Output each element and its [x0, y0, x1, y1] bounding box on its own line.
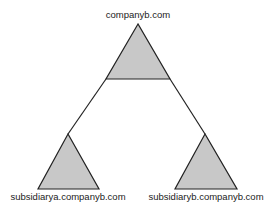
domain-tree-diagram: [0, 0, 277, 210]
subsidiary-b-label: subsidiaryb.companyb.com: [148, 191, 263, 202]
subsidiary-a-triangle: [38, 134, 99, 189]
connector-left: [68, 79, 106, 134]
root-domain-triangle: [106, 24, 170, 79]
root-domain-label: companyb.com: [106, 9, 170, 20]
connector-right: [170, 79, 205, 134]
subsidiary-b-triangle: [175, 134, 237, 189]
subsidiary-a-label: subsidiarya.companyb.com: [10, 191, 125, 202]
